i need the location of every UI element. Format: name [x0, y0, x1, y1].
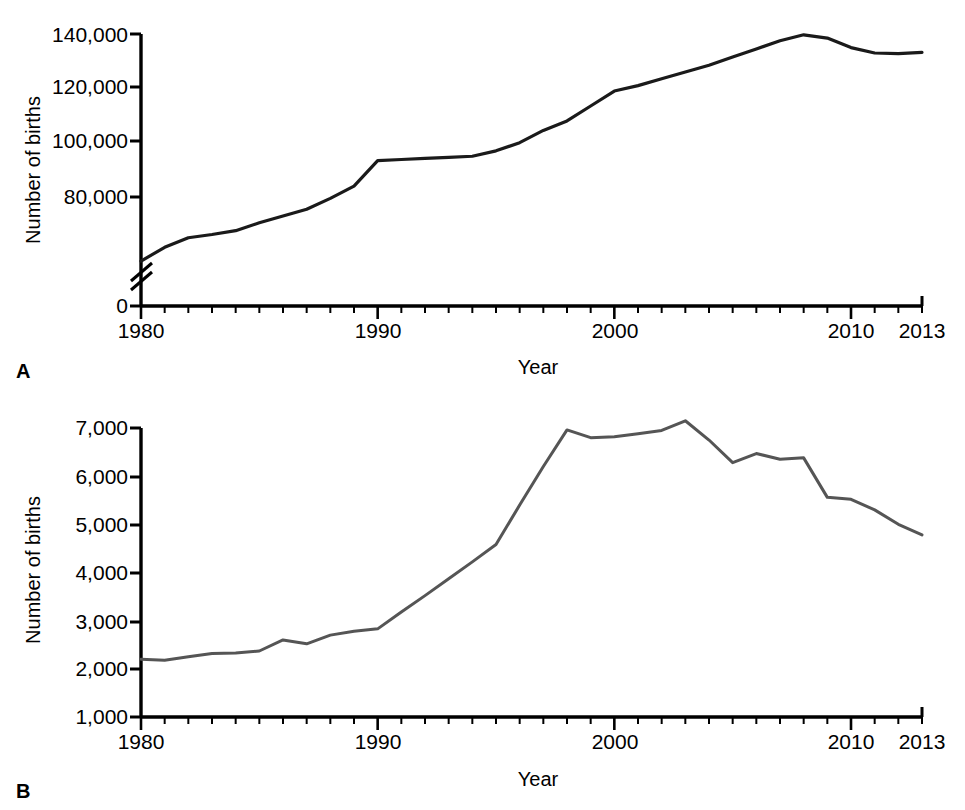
- panel-b-ytick-1000: 1,000: [75, 705, 128, 728]
- panel-b-ytick-7000: 7,000: [75, 416, 128, 439]
- panel-a-xtick-1980: 1980: [118, 319, 165, 342]
- panel-a: Number of births 140,000 120,000 100,000…: [0, 0, 965, 390]
- panel-b-xtick-2010: 2010: [828, 730, 875, 753]
- panel-b-xtick-marks: [141, 717, 922, 730]
- panel-a-series-line: [141, 35, 922, 261]
- panel-b-xtick-2013: 2013: [899, 730, 946, 753]
- panel-b-ytick-4000: 4,000: [75, 561, 128, 584]
- panel-a-plot: Number of births 140,000 120,000 100,000…: [0, 0, 965, 390]
- panel-b: Number of births 7,000 6,000 5,000 4,000…: [0, 390, 965, 810]
- panel-b-ytick-6000: 6,000: [75, 465, 128, 488]
- panel-a-xtick-2000: 2000: [592, 319, 639, 342]
- panel-a-ytick-80000: 80,000: [64, 185, 128, 208]
- panel-a-letter: A: [16, 360, 30, 382]
- panel-b-ytick-2000: 2,000: [75, 657, 128, 680]
- births-figure: Number of births 140,000 120,000 100,000…: [0, 0, 965, 810]
- panel-b-letter: B: [16, 780, 30, 802]
- panel-a-ytick-100000: 100,000: [52, 129, 128, 152]
- panel-b-plot: Number of births 7,000 6,000 5,000 4,000…: [0, 390, 965, 810]
- panel-a-ytick-120000: 120,000: [52, 75, 128, 98]
- panel-b-y-axis-title: Number of births: [22, 496, 44, 644]
- panel-a-xtick-2010: 2010: [828, 319, 875, 342]
- panel-b-xtick-1990: 1990: [355, 730, 402, 753]
- panel-a-xtick-marks: [141, 306, 922, 319]
- panel-a-x-axis-title: Year: [518, 356, 559, 378]
- panel-a-xtick-2013: 2013: [899, 319, 946, 342]
- panel-b-xtick-2000: 2000: [592, 730, 639, 753]
- panel-b-x-axis-title: Year: [518, 768, 559, 790]
- panel-a-ytick-0: 0: [116, 294, 128, 317]
- panel-b-ytick-5000: 5,000: [75, 513, 128, 536]
- panel-a-xtick-1990: 1990: [355, 319, 402, 342]
- panel-b-series-line: [141, 421, 922, 660]
- panel-a-ytick-140000: 140,000: [52, 23, 128, 46]
- panel-b-xtick-1980: 1980: [118, 730, 165, 753]
- panel-b-ytick-3000: 3,000: [75, 610, 128, 633]
- panel-a-y-axis-title: Number of births: [22, 96, 44, 244]
